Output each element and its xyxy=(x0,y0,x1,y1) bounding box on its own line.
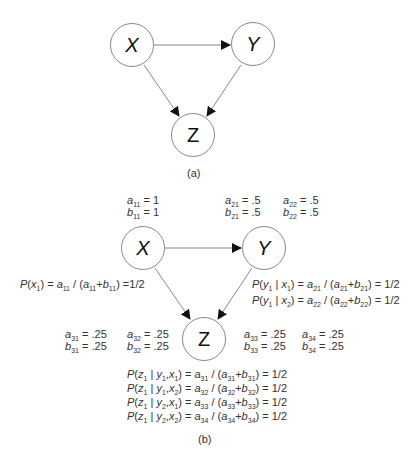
edge-b-y-to-z xyxy=(218,268,252,319)
param-a21: a21 = .5 xyxy=(225,194,261,206)
param-a11: a11 = 1 xyxy=(127,194,159,206)
formula-pz1-y1x2: P(z1 | y1,x2) = a32 / (a32+b32) = 1/2 xyxy=(127,381,287,395)
node-b-y: Y xyxy=(242,226,286,270)
param-b34: b34 = .25 xyxy=(302,340,344,352)
param-b31: b31 = .25 xyxy=(65,340,107,352)
formula-pz1-y1x1: P(z1 | y1,x1) = a31 / (a31+b31) = 1/2 xyxy=(127,367,287,381)
param-a22: a22 = .5 xyxy=(283,194,319,206)
node-b-x-label: X xyxy=(136,237,149,260)
node-a-y-label: Y xyxy=(246,33,259,56)
formula-px1: P(x1) = a11 / (a11+b11) =1/2 xyxy=(20,277,145,291)
edge-a-y-to-z xyxy=(207,65,241,116)
node-a-z: Z xyxy=(171,113,215,157)
node-b-y-label: Y xyxy=(257,237,270,260)
node-a-z-label: Z xyxy=(187,124,199,147)
node-b-x: X xyxy=(121,226,165,270)
param-b33: b33 = .25 xyxy=(244,340,286,352)
node-b-z-label: Z xyxy=(198,328,210,351)
param-a34: a34 = .25 xyxy=(302,328,344,340)
formula-py1-x2: P(y1 | x2) = a22 / (a22+b22) = 1/2 xyxy=(252,293,400,307)
edge-b-x-to-z xyxy=(155,268,190,319)
param-b21: b21 = .5 xyxy=(225,206,261,218)
param-b11: b11 = 1 xyxy=(127,206,159,218)
node-a-x: X xyxy=(110,23,154,67)
param-a31: a31 = .25 xyxy=(65,328,107,340)
node-a-y: Y xyxy=(231,22,275,66)
edge-a-x-to-z xyxy=(144,65,179,116)
node-b-z: Z xyxy=(182,317,226,361)
param-b32: b32 = .25 xyxy=(127,340,169,352)
formula-pz1-y2x2: P(z1 | y2,x2) = a34 / (a34+b34) = 1/2 xyxy=(127,409,287,423)
caption-b: (b) xyxy=(198,433,211,445)
formula-py1-x1: P(y1 | x1) = a21 / (a21+b21) = 1/2 xyxy=(252,277,400,291)
param-a32: a32 = .25 xyxy=(127,328,169,340)
formula-pz1-y2x1: P(z1 | y2,x1) = a33 / (a33+b33) = 1/2 xyxy=(127,395,287,409)
caption-a: (a) xyxy=(187,167,200,179)
node-a-x-label: X xyxy=(125,34,138,57)
param-a33: a33 = .25 xyxy=(244,328,286,340)
param-b22: b22 = .5 xyxy=(283,206,319,218)
